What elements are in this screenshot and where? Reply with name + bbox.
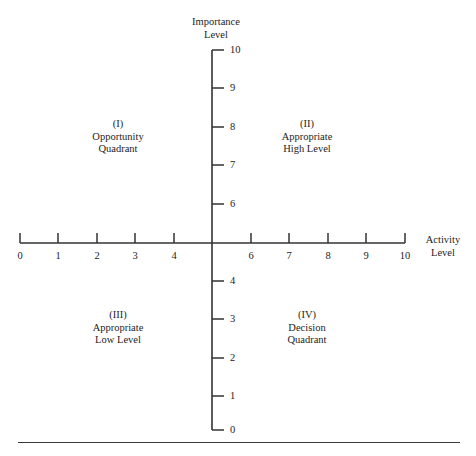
y-tick-label-6: 6 xyxy=(230,198,248,209)
bottom-rule xyxy=(18,442,460,443)
y-tick-label-2: 2 xyxy=(230,352,248,363)
quadrant-label-iii: (III) Appropriate Low Level xyxy=(63,309,173,347)
y-tick-label-4: 4 xyxy=(230,275,248,286)
x-tick-label-3: 3 xyxy=(125,250,145,261)
x-tick-label-7: 7 xyxy=(279,250,299,261)
quadrant-label-iv: (IV) Decision Quadrant xyxy=(252,309,362,347)
y-tick-label-8: 8 xyxy=(230,121,248,132)
x-tick-label-1: 1 xyxy=(48,250,68,261)
x-tick-label-8: 8 xyxy=(318,250,338,261)
y-axis-title: Importance Level xyxy=(166,16,266,41)
x-tick-label-10: 10 xyxy=(395,250,415,261)
axes-and-ticks xyxy=(0,0,476,456)
y-tick-marks xyxy=(212,50,224,430)
y-tick-label-3: 3 xyxy=(230,313,248,324)
y-tick-label-10: 10 xyxy=(230,44,248,55)
x-tick-label-9: 9 xyxy=(356,250,376,261)
y-tick-label-0: 0 xyxy=(230,424,248,435)
x-tick-label-6: 6 xyxy=(241,250,261,261)
y-tick-label-9: 9 xyxy=(230,82,248,93)
x-tick-label-0: 0 xyxy=(10,250,30,261)
quadrant-chart-figure: Importance Level Activity Level 0 1 2 3 … xyxy=(0,0,476,456)
y-tick-label-1: 1 xyxy=(230,390,248,401)
quadrant-label-i: (I) Opportunity Quadrant xyxy=(63,118,173,156)
x-tick-label-4: 4 xyxy=(164,250,184,261)
quadrant-label-ii: (II) Appropriate High Level xyxy=(252,118,362,156)
y-tick-label-7: 7 xyxy=(230,159,248,170)
x-tick-label-2: 2 xyxy=(87,250,107,261)
x-axis-title: Activity Level xyxy=(414,234,472,259)
